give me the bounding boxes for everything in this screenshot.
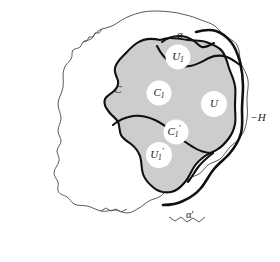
- label-alpha: α: [177, 29, 183, 40]
- label-minus-H: −H: [250, 111, 266, 123]
- label-alpha-prime: α′: [186, 209, 194, 220]
- label-C: C: [114, 83, 122, 95]
- topology-figure: U1 C1 U C1′ U1′ α α′ C −H: [0, 0, 280, 262]
- figure-canvas: U1 C1 U C1′ U1′ α α′ C −H: [0, 0, 280, 262]
- disc-label-U: U: [210, 97, 219, 109]
